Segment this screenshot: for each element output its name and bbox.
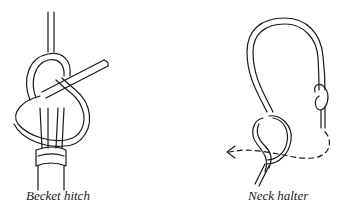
neck-halter-illustration	[173, 0, 347, 213]
neck-halter-caption: Neck halter	[248, 188, 308, 204]
becket-hitch-figure: Becket hitch	[0, 0, 173, 213]
becket-hitch-illustration	[0, 0, 173, 213]
neck-halter-figure: Neck halter	[173, 0, 347, 213]
becket-hitch-caption: Becket hitch	[26, 188, 90, 204]
